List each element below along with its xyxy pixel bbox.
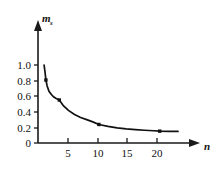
x-tick-label-15: 15 (122, 147, 134, 159)
data-point (44, 78, 47, 81)
y-tick-label-0: 0 (26, 137, 32, 149)
data-point (97, 123, 100, 126)
data-point (158, 129, 161, 132)
chart-svg: 0 0.2 0.4 0.6 0.8 1.0 5 10 15 20 m s n (0, 0, 219, 178)
y-tick-label-0-2: 0.2 (17, 122, 31, 134)
y-tick-label-0-4: 0.4 (17, 106, 31, 118)
data-point (58, 98, 61, 101)
y-tick-label-0-8: 0.8 (17, 75, 31, 87)
y-tick-label-0-6: 0.6 (17, 90, 31, 102)
y-tick-label-1-0: 1.0 (17, 59, 31, 71)
x-tick-label-20: 20 (152, 147, 164, 159)
chart-background (0, 0, 219, 178)
x-axis-label: n (204, 140, 210, 152)
chart-figure: 0 0.2 0.4 0.6 0.8 1.0 5 10 15 20 m s n (0, 0, 219, 178)
x-tick-label-10: 10 (93, 147, 105, 159)
x-tick-label-5: 5 (65, 147, 71, 159)
y-axis-label-subscript: s (49, 19, 53, 27)
